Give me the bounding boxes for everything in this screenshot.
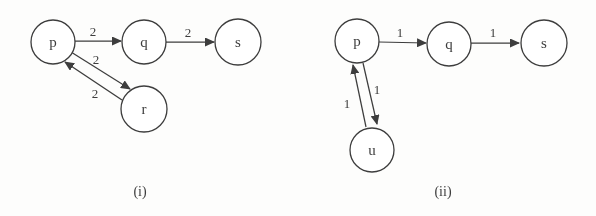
scanned-figure: 2222pqsr(i)1111pqsu(ii): [0, 0, 596, 216]
edge-weight-ii-p-u: 1: [374, 82, 381, 97]
edge-weight-i-p-r: 2: [93, 52, 100, 67]
edge-ii-p-q: [379, 42, 426, 43]
node-label-ii-u: u: [368, 142, 376, 158]
edge-weight-i-q-s: 2: [185, 25, 192, 40]
node-label-i-q: q: [140, 34, 148, 50]
edge-weight-ii-p-q: 1: [397, 25, 404, 40]
caption-ii: (ii): [434, 184, 451, 200]
edge-weight-ii-u-p: 1: [344, 96, 351, 111]
caption-i: (i): [133, 184, 147, 200]
edge-weight-i-p-q: 2: [90, 24, 97, 39]
node-label-i-r: r: [142, 101, 147, 117]
node-label-i-p: p: [49, 34, 57, 50]
graph-i: 2222pqsr(i): [31, 19, 261, 200]
node-label-ii-p: p: [353, 33, 361, 49]
graph-diagrams-svg: 2222pqsr(i)1111pqsu(ii): [0, 0, 596, 216]
edge-weight-i-r-p: 2: [92, 86, 99, 101]
edge-weight-ii-q-s: 1: [490, 25, 497, 40]
edge-ii-u-p: [353, 65, 366, 127]
edge-i-p-r: [71, 52, 130, 89]
node-label-ii-q: q: [445, 36, 453, 52]
node-label-i-s: s: [235, 34, 241, 50]
node-label-ii-s: s: [541, 35, 547, 51]
graph-ii: 1111pqsu(ii): [335, 19, 567, 200]
